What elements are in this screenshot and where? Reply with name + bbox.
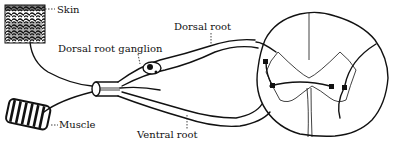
motor-fiber xyxy=(44,92,92,112)
spinal-nerve-ring xyxy=(92,82,100,96)
muscle-tissue xyxy=(5,98,51,130)
ventral-root-outer xyxy=(118,96,270,126)
ganglion-cell-body xyxy=(147,64,153,70)
spinal-cord-section xyxy=(256,12,388,137)
ventral-median-fissure xyxy=(307,88,312,137)
diagram-canvas: Skin Muscle Dorsal root ganglion Dorsal … xyxy=(0,0,395,144)
ganglion-leader xyxy=(138,54,140,64)
spinal-cord-outline xyxy=(257,12,388,136)
ventral-root-label: Ventral root xyxy=(136,129,198,140)
skin-label: Skin xyxy=(57,4,80,15)
muscle-label: Muscle xyxy=(59,119,96,130)
reflex-arc-diagram: Skin Muscle Dorsal root ganglion Dorsal … xyxy=(0,0,395,144)
dorsal-root-label: Dorsal root xyxy=(174,21,231,32)
commissural-fiber xyxy=(270,82,330,86)
skin-tissue xyxy=(5,5,45,43)
dorsal-root-ganglion-label: Dorsal root ganglion xyxy=(58,43,163,54)
